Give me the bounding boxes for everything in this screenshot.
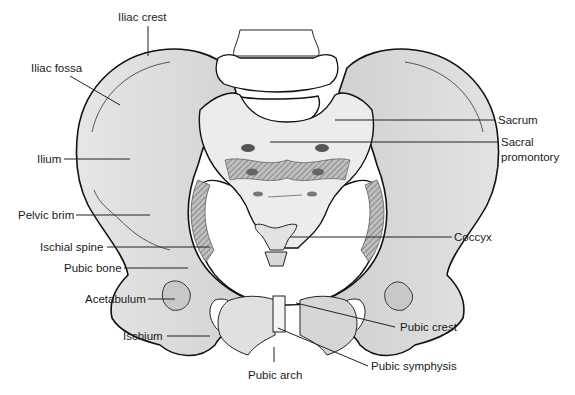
label-acetabulum: Acetabulum [85,293,146,306]
label-iliac-crest: Iliac crest [118,11,167,24]
label-iliac-fossa: Iliac fossa [31,62,82,75]
pelvis-diagram: Iliac crest Iliac fossa Ilium Pelvic bri… [0,0,575,395]
label-pubic-symphysis: Pubic symphysis [371,360,457,373]
label-sacrum: Sacrum [498,114,538,127]
label-pubic-bone: Pubic bone [64,262,122,275]
label-sacral-promontory-line1: Sacral [501,136,534,149]
label-pubic-crest: Pubic crest [400,321,457,334]
pubic-symphysis-shape [273,296,285,332]
label-coccyx: Coccyx [454,231,492,244]
label-pubic-arch: Pubic arch [248,369,302,382]
pelvis-illustration [0,0,575,395]
label-ischial-spine: Ischial spine [40,241,103,254]
label-pelvic-brim: Pelvic brim [18,209,74,222]
label-ilium: Ilium [37,153,61,166]
label-sacral-promontory-line2: promontory [501,151,559,164]
label-ischium: Ischium [123,330,163,343]
